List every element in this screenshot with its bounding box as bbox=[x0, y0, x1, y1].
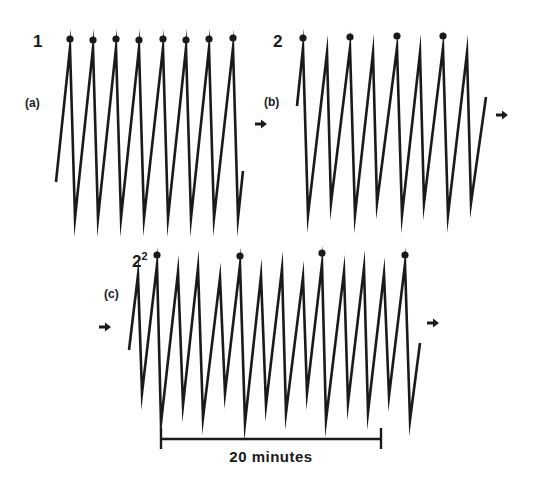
peak-dot-icon bbox=[236, 252, 243, 259]
peak-markers-a bbox=[66, 34, 236, 43]
oscillation-trace-b bbox=[297, 48, 486, 215]
oscillation-trace-c bbox=[129, 264, 420, 423]
period-label-a: 1 bbox=[33, 32, 42, 51]
scale-bar-label: 20 minutes bbox=[229, 448, 312, 465]
period-label-b: 2 bbox=[273, 32, 282, 51]
panel-b-period-2: (b) 2 bbox=[264, 32, 508, 215]
period-doubling-diagram: (a) 1 (b) 2 (c) 22 20 minutes bbox=[0, 0, 536, 482]
panel-label-a: (a) bbox=[25, 96, 40, 110]
peak-dot-icon bbox=[318, 249, 325, 256]
oscillation-trace-a bbox=[56, 48, 243, 218]
arrow-right-icon bbox=[427, 319, 439, 328]
peak-dot-icon bbox=[401, 251, 408, 258]
peak-dot-icon bbox=[299, 34, 306, 41]
peak-dot-icon bbox=[159, 35, 166, 42]
arrow-right-icon bbox=[496, 111, 508, 120]
peak-dot-icon bbox=[393, 32, 400, 39]
peak-dot-icon bbox=[135, 36, 142, 43]
peak-dot-icon bbox=[89, 36, 96, 43]
peak-dot-icon bbox=[112, 35, 119, 42]
peak-dot-icon bbox=[229, 34, 236, 41]
peak-dot-icon bbox=[439, 32, 446, 39]
arrow-right-icon bbox=[255, 120, 267, 129]
peak-dot-icon bbox=[346, 33, 353, 40]
peak-markers-b bbox=[299, 32, 446, 41]
panel-label-c: (c) bbox=[104, 287, 119, 301]
peak-dot-icon bbox=[205, 35, 212, 42]
panel-c-period-4: (c) 22 bbox=[99, 249, 439, 423]
peak-dot-icon bbox=[66, 35, 73, 42]
arrow-right-icon bbox=[99, 323, 111, 332]
time-scale-bar: 20 minutes bbox=[161, 428, 381, 465]
panel-label-b: (b) bbox=[264, 95, 279, 109]
peak-dot-icon bbox=[182, 36, 189, 43]
panel-a-period-1: (a) 1 bbox=[25, 32, 267, 218]
peak-dot-icon bbox=[153, 251, 160, 258]
period-label-c: 22 bbox=[132, 250, 148, 271]
peak-markers-c bbox=[153, 249, 408, 259]
